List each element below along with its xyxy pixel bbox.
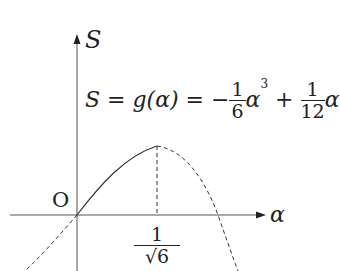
curve-solid: [77, 146, 157, 215]
y-axis-arrow-icon: [74, 34, 81, 44]
formula-lhs: S = g(α) =: [85, 87, 204, 112]
formula-minus: −: [211, 87, 229, 112]
peak-tick-label: 1√6: [134, 225, 180, 266]
curve-dashed-left: [25, 215, 77, 271]
formula-fraction-2: 112: [301, 80, 325, 121]
formula-fraction-1: 16: [229, 80, 245, 121]
y-axis-label: S: [85, 28, 101, 52]
x-axis-arrow-icon: [256, 212, 266, 219]
function-formula: S = g(α) = −16α3 + 112α: [85, 80, 340, 121]
x-axis-label: α: [270, 204, 285, 226]
formula-plus: +: [275, 87, 293, 112]
origin-label: O: [52, 190, 69, 211]
